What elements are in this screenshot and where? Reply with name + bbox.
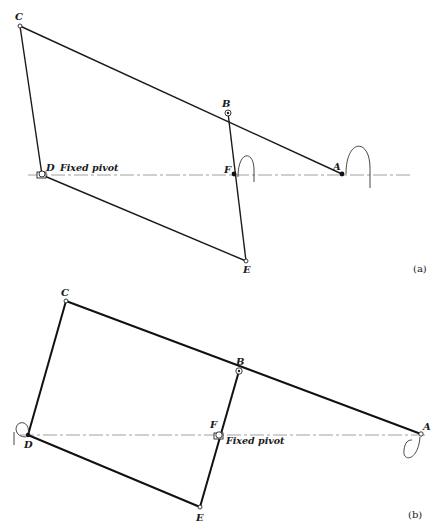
label-a: A	[422, 421, 431, 432]
link-d-e	[42, 175, 246, 261]
label-e: E	[195, 512, 204, 523]
label-c: C	[61, 287, 69, 298]
joint-e	[198, 505, 202, 509]
link-c-d	[28, 301, 66, 435]
label-b: B	[235, 356, 244, 367]
joint-b-inner	[238, 370, 240, 372]
fixed-pivot-label-a: Fixed pivot	[59, 162, 119, 173]
joint-c	[64, 299, 68, 303]
label-a: A	[332, 161, 341, 172]
link-d-e	[28, 435, 200, 507]
label-d: D	[45, 162, 55, 173]
rotation-arrow-f	[238, 156, 254, 182]
joint-d	[26, 433, 30, 437]
fixed-pivot-label-b: Fixed pivot	[225, 435, 285, 446]
joint-a	[419, 432, 423, 436]
label-f: F	[209, 419, 218, 430]
joint-f	[232, 172, 237, 177]
label-b: B	[221, 98, 230, 109]
link-c-d	[20, 26, 42, 175]
caption-a: (a)	[413, 263, 427, 274]
fixed-pivot-d-icon	[37, 171, 46, 178]
joint-a	[340, 172, 345, 177]
rotation-arrow-a	[404, 437, 420, 458]
link-c-a	[66, 301, 421, 434]
label-f: F	[223, 164, 232, 175]
caption-b: (b)	[408, 509, 422, 520]
linkage-diagram: C B A F D Fixed pivot E (a) C B A F Fixe…	[0, 0, 438, 532]
link-c-a	[20, 26, 342, 174]
fixed-pivot-f-icon	[214, 432, 223, 439]
label-c: C	[15, 11, 23, 22]
label-e: E	[242, 264, 251, 275]
figure-b: C B A F Fixed pivot D E (b)	[14, 287, 431, 523]
link-b-e	[228, 113, 246, 261]
figure-a: C B A F D Fixed pivot E (a)	[15, 11, 427, 275]
joint-e	[244, 259, 248, 263]
joint-b-inner	[227, 112, 229, 114]
joint-c	[18, 24, 22, 28]
label-d: D	[23, 439, 33, 450]
rotation-arrow-a	[346, 146, 370, 188]
